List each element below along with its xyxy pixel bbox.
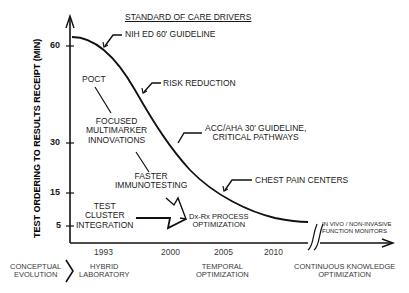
innovation-faster: FASTER IMMUNOTESTING [115, 172, 187, 191]
driver-acc-line2: CRITICAL PATHWAYS [205, 133, 306, 142]
diagram-canvas: TEST ORDERING TO RESULTS RECEIPT (MIN) 6… [0, 0, 409, 293]
stage-hybrid: HYBRID LABORATORY [79, 263, 129, 280]
innovation-invivo-line2: FUNCTION MONITORS [322, 228, 392, 235]
x-tick-1993: 1993 [94, 248, 113, 257]
driver-chest: CHEST PAIN CENTERS [255, 176, 348, 185]
stage-temporal: TEMPORAL OPTIMIZATION [196, 263, 249, 280]
y-tick-5: 5 [56, 221, 61, 231]
stage-conceptual: CONCEPTUAL EVOLUTION [10, 263, 61, 280]
innovation-faster-line2: IMMUNOTESTING [115, 181, 187, 190]
standard-of-care-header: STANDARD OF CARE DRIVERS [125, 13, 251, 22]
driver-leaders [103, 35, 252, 191]
x-axis [70, 239, 393, 247]
chevron-right-icon [66, 260, 73, 282]
innovation-invivo-line1: IN VIVO / NON-INVASIVE [322, 221, 392, 228]
stage-hybrid-line2: LABORATORY [79, 271, 129, 279]
x-tick-2010: 2010 [264, 248, 283, 257]
x-tick-2000: 2000 [161, 248, 180, 257]
x-tick-2005: 2005 [214, 248, 233, 257]
y-tick-15: 15 [50, 188, 60, 198]
innovation-dxrx-line2: OPTIMIZATION [189, 221, 249, 229]
innovation-dxrx: Dx-Rx PROCESS OPTIMIZATION [189, 213, 249, 230]
y-tick-30: 30 [50, 138, 60, 148]
diagram-graphics [0, 0, 409, 293]
stage-continuous-line2: OPTIMIZATION [294, 271, 395, 279]
stage-conceptual-line2: EVOLUTION [10, 271, 61, 279]
driver-acc: ACC/AHA 30' GUIDELINE, CRITICAL PATHWAYS [205, 124, 306, 143]
innovation-poct: POCT [82, 75, 106, 84]
y-axis-label: TEST ORDERING TO RESULTS RECEIPT (MIN) [32, 39, 42, 238]
stage-temporal-line2: OPTIMIZATION [196, 271, 249, 279]
innovation-focused-line3: INNOVATIONS [86, 136, 147, 145]
innovation-invivo: IN VIVO / NON-INVASIVE FUNCTION MONITORS [322, 221, 392, 234]
innovation-focused: FOCUSED MULTIMARKER INNOVATIONS [86, 117, 147, 145]
innovation-test-line3: INTEGRATION [76, 221, 133, 230]
innovation-test-cluster: TEST CLUSTER INTEGRATION [76, 202, 133, 230]
y-axis [66, 16, 74, 243]
stage-continuous: CONTINUOUS KNOWLEDGE OPTIMIZATION [294, 263, 395, 280]
driver-nih: NIH ED 60' GUIDELINE [125, 30, 215, 39]
driver-risk: RISK REDUCTION [163, 79, 236, 88]
axis-break-icon [308, 224, 323, 250]
y-tick-60: 60 [50, 41, 60, 51]
